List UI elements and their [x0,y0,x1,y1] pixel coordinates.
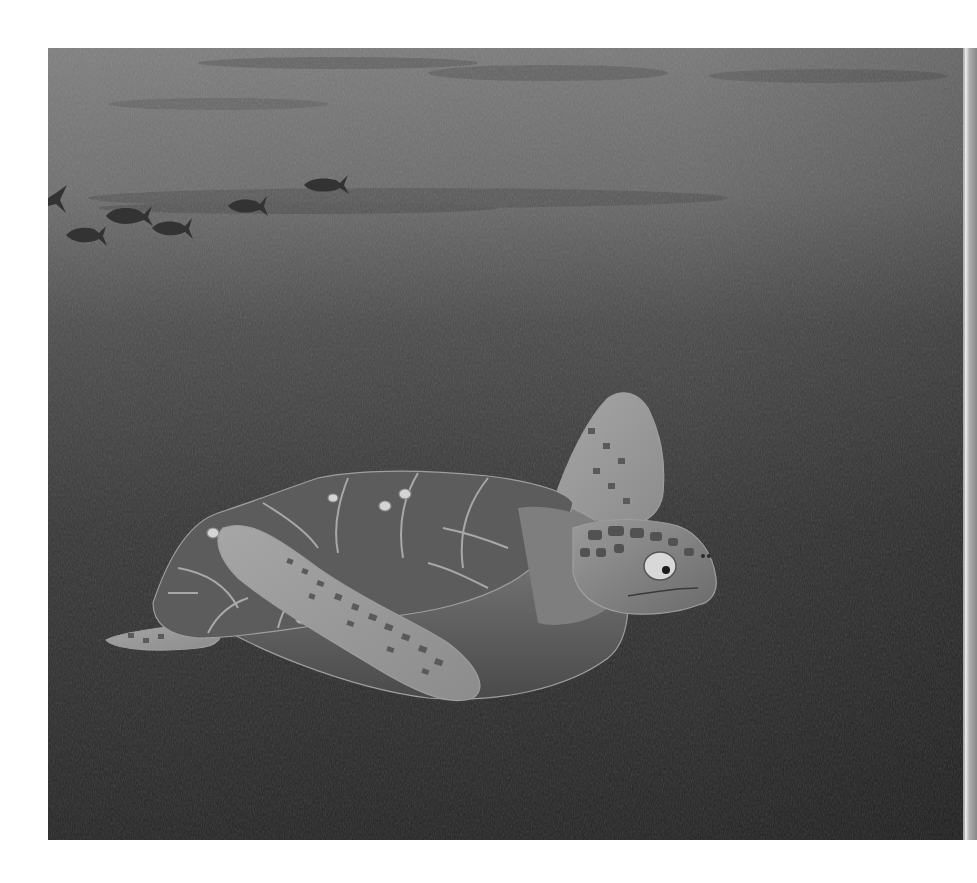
underwater-illustration [48,48,965,840]
book-gutter [963,48,977,840]
illustration-canvas [48,48,965,840]
turtle-nostril [701,554,705,558]
turtle-eye [644,552,676,580]
turtle-nostril [707,554,711,558]
book-page [0,0,977,883]
